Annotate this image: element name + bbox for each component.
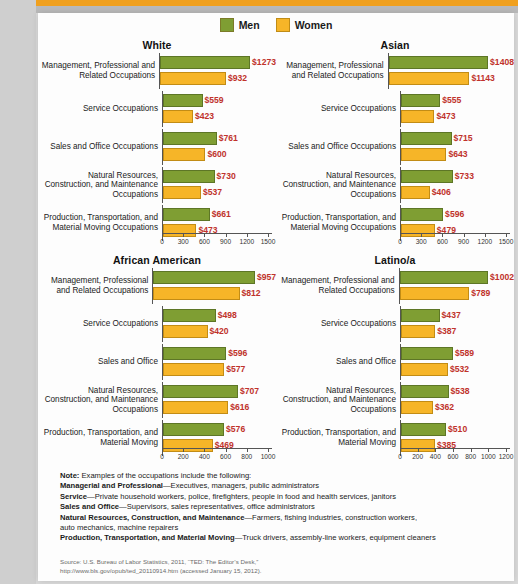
category-row: Sales and Office Occupations$761$600	[38, 129, 276, 165]
category-label: Natural Resources, Construction, and Mai…	[276, 386, 400, 415]
bar-men	[401, 94, 440, 107]
x-axis: 02004006008001000	[162, 448, 272, 464]
x-axis-tick-label: 300	[416, 238, 427, 245]
bar-women	[163, 186, 201, 199]
top-grey-rule	[36, 6, 518, 13]
bar-row-women: $812	[153, 286, 276, 300]
x-axis-tick	[226, 448, 227, 452]
bar-value-label: $1002	[490, 272, 514, 282]
x-axis-tick	[162, 448, 163, 452]
bar-row-women: $537	[163, 185, 276, 199]
category-rows: Management, Professional and Related Occ…	[276, 268, 514, 458]
x-axis-tick-label: 1000	[261, 453, 276, 460]
bar-women	[401, 401, 433, 414]
bar-row-women: $643	[401, 147, 514, 161]
note-text: —Farmers, fishing industries, constructi…	[244, 513, 417, 522]
x-axis-tick-label: 800	[241, 453, 252, 460]
bar-group: $538$362	[400, 382, 514, 418]
bar-value-label: $596	[228, 348, 247, 358]
bar-group: $733$406	[400, 167, 514, 203]
bar-row-men: $733	[401, 169, 514, 183]
bar-women	[401, 325, 435, 338]
bar-row-men: $596	[401, 207, 514, 221]
plot-area: Management, Professional and Related Occ…	[276, 268, 514, 464]
bar-row-men: $707	[163, 384, 276, 398]
x-axis-tick	[453, 448, 454, 452]
bar-women	[163, 110, 193, 123]
bar-value-label: $643	[448, 149, 467, 159]
category-label: Management, Professional and Related Occ…	[38, 276, 152, 295]
bar-row-men: $715	[401, 131, 514, 145]
bar-group: $715$643	[400, 129, 514, 165]
chart-title: Latino/a	[276, 254, 514, 266]
category-row: Service Occupations$559$423	[38, 91, 276, 127]
category-label: Service Occupations	[38, 104, 162, 114]
bar-value-label: $559	[205, 95, 224, 105]
bar-women	[401, 148, 446, 161]
bar-women	[163, 363, 224, 376]
category-label: Management, Professional and Related Occ…	[276, 61, 388, 80]
x-axis-tick	[471, 448, 472, 452]
legend-label-women: Women	[295, 19, 333, 31]
bar-group: $498$420	[162, 306, 276, 342]
bar-row-women: $532	[401, 362, 514, 376]
figure-page: Men Women WhiteManagement, Professional …	[0, 0, 518, 584]
bar-value-label: $420	[210, 326, 229, 336]
note-term: Managerial and Professional	[60, 481, 163, 490]
bar-value-label: $537	[203, 187, 222, 197]
category-row: Management, Professional and Related Occ…	[38, 53, 276, 89]
category-row: Natural Resources, Construction, and Mai…	[38, 382, 276, 418]
bar-row-women: $423	[163, 109, 276, 123]
bar-value-label: $761	[219, 133, 238, 143]
bar-row-men: $596	[163, 346, 276, 360]
x-axis-tick-label: 0	[398, 238, 402, 245]
figure-source: Source: U.S. Bureau of Labor Statistics,…	[60, 557, 508, 575]
category-row: Sales and Office Occupations$715$643	[276, 129, 514, 165]
x-axis-tick-label: 600	[437, 238, 448, 245]
bar-value-label: $576	[226, 424, 245, 434]
x-axis-tick	[488, 448, 489, 452]
plot-area: Management, Professional and Related Occ…	[38, 53, 276, 249]
chart-title: White	[38, 39, 276, 51]
bar-row-men: $510	[401, 422, 514, 436]
chart-legend: Men Women	[38, 18, 514, 32]
x-axis-tick-label: 900	[458, 238, 469, 245]
category-label: Sales and Office Occupations	[38, 142, 162, 152]
x-axis-tick	[183, 448, 184, 452]
bar-row-women: $1143	[389, 71, 514, 85]
bar-group: $589$532	[400, 344, 514, 380]
x-axis-tick-label: 400	[430, 453, 441, 460]
category-row: Natural Resources, Construction, and Mai…	[276, 167, 514, 203]
x-axis-tick	[485, 233, 486, 237]
x-axis-tick	[418, 448, 419, 452]
x-axis-tick	[268, 448, 269, 452]
source-line-1: Source: U.S. Bureau of Labor Statistics,…	[60, 557, 508, 566]
category-row: Service Occupations$498$420	[38, 306, 276, 342]
figure-body: Men Women WhiteManagement, Professional …	[38, 13, 514, 581]
bar-row-men: $1002	[400, 270, 514, 284]
note-line: Note: Examples of the occupations includ…	[60, 471, 508, 481]
note-line: Natural Resources, Construction, and Mai…	[60, 513, 508, 523]
category-label: Natural Resources, Construction, and Mai…	[38, 171, 162, 200]
category-label: Production, Transportation, and Material…	[38, 428, 162, 447]
bar-value-label: $1273	[252, 57, 276, 67]
x-axis-tick-label: 0	[160, 453, 164, 460]
x-axis-line	[400, 448, 510, 449]
bar-row-women: $406	[401, 185, 514, 199]
x-axis-tick	[400, 448, 401, 452]
note-text: —Supervisors, sales representatives, off…	[119, 502, 315, 511]
bar-row-women: $420	[163, 324, 276, 338]
x-axis-tick-label: 200	[178, 453, 189, 460]
bar-men	[401, 385, 449, 398]
page-left-margin	[0, 0, 36, 584]
bar-value-label: $589	[455, 348, 474, 358]
x-axis-tick	[247, 448, 248, 452]
bar-value-label: $473	[436, 111, 455, 121]
bar-group: $761$600	[162, 129, 276, 165]
chart-panel-african-american: African AmericanManagement, Professional…	[38, 252, 276, 467]
bar-value-label: $600	[207, 149, 226, 159]
x-axis-tick	[464, 233, 465, 237]
x-axis-tick	[506, 233, 507, 237]
category-row: Sales and Office$596$577	[38, 344, 276, 380]
category-row: Service Occupations$437$387	[276, 306, 514, 342]
